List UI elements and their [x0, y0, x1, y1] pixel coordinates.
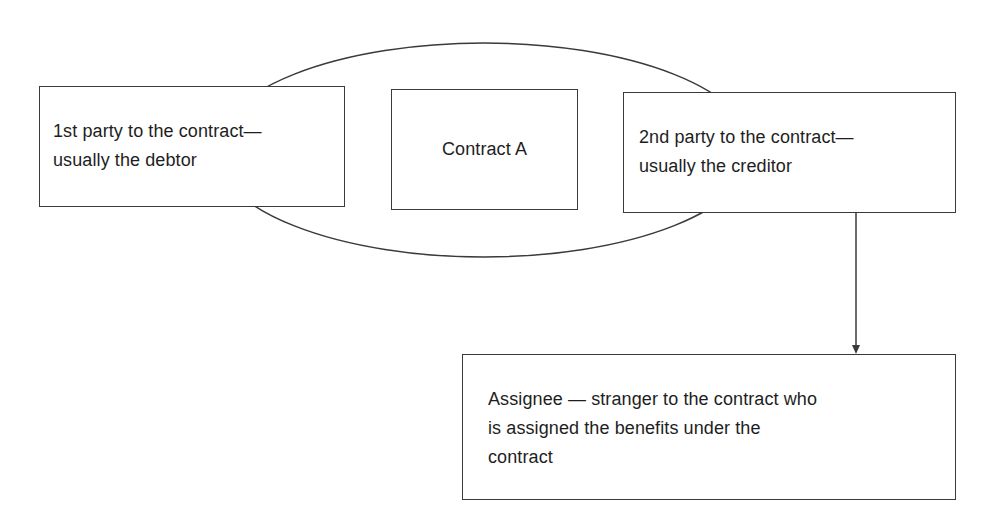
first-party-label: 1st party to the contract— usually the d…: [53, 117, 262, 175]
second-party-label: 2nd party to the contract— usually the c…: [639, 123, 854, 181]
first-party-box: 1st party to the contract— usually the d…: [39, 86, 345, 207]
assignee-box: Assignee — stranger to the contract who …: [462, 354, 956, 500]
contract-a-box: Contract A: [391, 89, 578, 210]
arrowhead-icon: [852, 345, 860, 354]
assignee-label: Assignee — stranger to the contract who …: [488, 385, 817, 472]
contract-a-label: Contract A: [392, 135, 577, 164]
second-party-box: 2nd party to the contract— usually the c…: [623, 92, 956, 213]
